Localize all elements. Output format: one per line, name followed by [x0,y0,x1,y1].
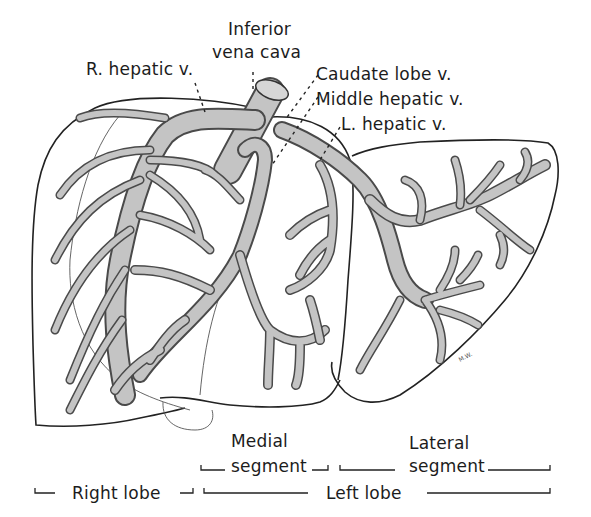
middle-hepatic-vein-label: Middle hepatic v. [316,89,464,109]
lateral-segment-label-line2: segment [409,456,485,476]
ivc-label-line2: vena cava [212,42,301,62]
left-lobe-label: Left lobe [326,483,402,503]
right-lobe-label: Right lobe [72,483,161,503]
medial-segment-label-line1: Medial [231,431,288,451]
hepatic-veins [55,76,545,410]
right-hepatic-vein-label: R. hepatic v. [86,59,193,79]
medial-segment-label-line2: segment [231,456,307,476]
ivc-label-line1: Inferior [228,19,291,39]
caudate-lobe-vein-label: Caudate lobe v. [316,64,452,84]
lateral-segment-label-line1: Lateral [409,433,470,453]
artist-signature: M.W. [457,350,473,363]
left-hepatic-vein-label: L. hepatic v. [341,114,447,134]
